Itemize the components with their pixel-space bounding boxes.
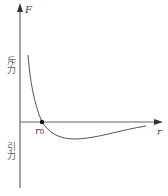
force-curve <box>28 55 146 139</box>
y-axis-arrow-icon <box>17 3 23 12</box>
equilibrium-label: r0 <box>35 126 44 137</box>
force-distance-diagram <box>0 0 168 196</box>
repulsion-label: 斥力 <box>5 56 15 74</box>
attraction-label: 引力 <box>5 142 15 160</box>
y-axis-label: F <box>25 5 32 15</box>
equilibrium-point <box>40 120 44 124</box>
x-axis-arrow-icon <box>154 119 163 125</box>
equilibrium-label-sub: 0 <box>40 128 44 136</box>
x-axis-label: r <box>157 127 162 137</box>
